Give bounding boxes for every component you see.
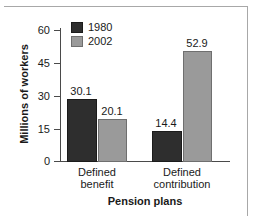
y-tick-mark-60: [54, 30, 60, 31]
y-tick-mark-30: [54, 96, 60, 97]
x-category-label-defined-contribution: Defined contribution: [139, 166, 225, 190]
y-tick-label-15: 15: [22, 124, 50, 135]
legend-swatch-2002: [71, 36, 83, 47]
bar-value-defined-benefit-1980: 30.1: [64, 86, 98, 97]
x-category-label-defined-benefit: Defined benefit: [54, 166, 140, 190]
frame-right-border: [247, 6, 248, 216]
bar-chart-figure: Millions of workers 60 45 30 15 0 1980 2…: [0, 0, 260, 218]
bar-defined-contribution-2002: [183, 51, 212, 162]
legend-swatch-1980: [71, 22, 83, 33]
bar-defined-contribution-1980: [152, 131, 182, 162]
x-category-label-line-1: Defined: [139, 166, 225, 178]
x-category-label-line-2: benefit: [54, 178, 140, 190]
y-tick-label-30: 30: [22, 91, 50, 102]
bar-defined-benefit-1980: [67, 99, 97, 162]
y-tick-label-0: 0: [22, 156, 50, 167]
x-category-label-line-2: contribution: [139, 178, 225, 190]
x-axis-title: Pension plans: [60, 195, 230, 207]
frame-top-border: [4, 6, 248, 7]
y-tick-mark-45: [54, 63, 60, 64]
bar-value-defined-benefit-2002: 20.1: [95, 106, 129, 117]
bar-value-defined-contribution-2002: 52.9: [180, 38, 214, 49]
bar-defined-benefit-2002: [98, 119, 127, 162]
legend-label-1980: 1980: [88, 22, 112, 33]
y-tick-label-45: 45: [22, 58, 50, 69]
y-axis-line: [60, 28, 61, 162]
y-tick-mark-15: [54, 129, 60, 130]
bar-value-defined-contribution-1980: 14.4: [149, 118, 183, 129]
x-category-label-line-1: Defined: [54, 166, 140, 178]
legend-label-2002: 2002: [88, 36, 112, 47]
y-tick-label-60: 60: [22, 25, 50, 36]
